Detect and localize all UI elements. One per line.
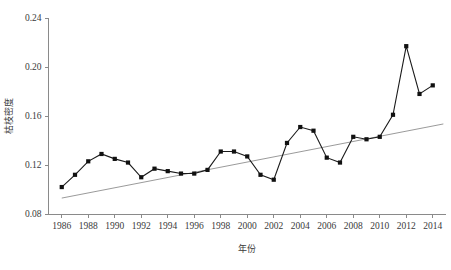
y-tick-label: 0.24	[25, 13, 42, 23]
data-point-marker	[113, 157, 117, 161]
x-tick-label: 2014	[423, 221, 442, 231]
data-point-marker	[325, 156, 329, 160]
x-tick-label: 2012	[397, 221, 416, 231]
x-tick-label: 1994	[158, 221, 177, 231]
data-point-markers	[60, 44, 435, 189]
series-line-path	[62, 46, 433, 187]
x-tick-label: 1990	[105, 221, 124, 231]
x-tick-label: 2010	[370, 221, 389, 231]
data-point-marker	[232, 149, 236, 153]
y-tick-label: 0.08	[25, 209, 42, 219]
data-point-marker	[272, 178, 276, 182]
y-tick-label: 0.20	[25, 62, 42, 72]
data-point-marker	[192, 171, 196, 175]
x-tick-label: 1988	[79, 221, 98, 231]
y-axis-title: 枯枝密度	[3, 98, 14, 134]
data-point-marker	[73, 173, 77, 177]
x-tick-label: 1992	[132, 221, 151, 231]
x-tick-label: 2006	[317, 221, 336, 231]
data-point-marker	[431, 83, 435, 87]
data-point-marker	[126, 160, 130, 164]
data-point-marker	[179, 171, 183, 175]
data-point-marker	[391, 113, 395, 117]
data-point-marker	[417, 92, 421, 96]
data-point-marker	[338, 160, 342, 164]
line-chart: 0.080.120.160.200.24 1986198819901992199…	[0, 0, 451, 270]
x-tick-label: 1996	[185, 221, 204, 231]
data-point-marker	[152, 167, 156, 171]
data-point-marker	[60, 185, 64, 189]
x-tick-label: 2000	[238, 221, 257, 231]
data-point-marker	[166, 169, 170, 173]
trend-line	[62, 124, 444, 198]
x-tick-label: 1986	[52, 221, 71, 231]
data-point-marker	[86, 159, 90, 163]
data-point-marker	[351, 135, 355, 139]
x-tick-label: 2002	[264, 221, 283, 231]
data-point-marker	[139, 175, 143, 179]
x-tick-label: 2004	[291, 221, 310, 231]
x-tick-label: 1998	[211, 221, 230, 231]
y-tick-label: 0.12	[25, 160, 42, 170]
x-tick-label: 2008	[344, 221, 363, 231]
x-axis-ticks: 1986198819901992199419961998200020022004…	[52, 214, 442, 231]
y-axis-ticks: 0.080.120.160.200.24	[25, 13, 49, 219]
data-point-marker	[311, 129, 315, 133]
chart-container: 0.080.120.160.200.24 1986198819901992199…	[0, 0, 451, 270]
y-tick-label: 0.16	[25, 111, 42, 121]
data-point-marker	[298, 125, 302, 129]
data-point-marker	[245, 154, 249, 158]
x-axis-title: 年份	[238, 243, 256, 254]
data-point-marker	[205, 168, 209, 172]
data-point-marker	[99, 152, 103, 156]
data-point-marker	[285, 141, 289, 145]
data-point-marker	[364, 137, 368, 141]
data-point-marker	[378, 135, 382, 139]
data-point-marker	[404, 44, 408, 48]
data-point-marker	[258, 173, 262, 177]
data-point-marker	[219, 149, 223, 153]
